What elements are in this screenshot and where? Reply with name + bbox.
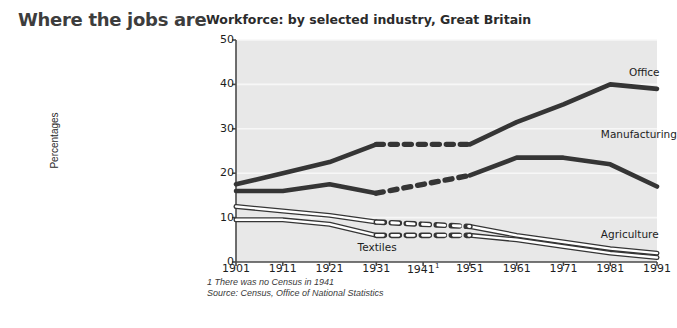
x-tick-text: 1971 (549, 262, 577, 275)
x-tick-text: 1931 (362, 262, 390, 275)
y-tick-label: 40 (200, 77, 234, 90)
x-tick-label: 1981 (596, 262, 624, 275)
x-tick-text: 1941 (407, 263, 435, 276)
x-tick-text: 1991 (643, 262, 671, 275)
y-tick-label: 30 (200, 122, 234, 135)
y-tick-label: 10 (200, 211, 234, 224)
x-tick-text: 1981 (596, 262, 624, 275)
x-tick-text: 1921 (316, 262, 344, 275)
y-axis-label: Percentages (49, 81, 60, 201)
x-tick-label: 1921 (316, 262, 344, 275)
x-tick-text: 1901 (222, 262, 250, 275)
x-tick-label: 1911 (269, 262, 297, 275)
x-tick-label: 1991 (643, 262, 671, 275)
x-tick-label: 1951 (456, 262, 484, 275)
series-label-agriculture: Agriculture (601, 228, 659, 240)
x-tick-label: 1901 (222, 262, 250, 275)
x-tick-text: 1911 (269, 262, 297, 275)
x-tick-label: 1961 (503, 262, 531, 275)
footnote: 1 There was no Census in 1941 (207, 277, 334, 287)
series-label-textiles: Textiles (358, 241, 397, 253)
x-tick-text: 1951 (456, 262, 484, 275)
footnote-marker: 1 (435, 262, 439, 270)
y-tick-label: 50 (200, 33, 234, 46)
source-note: Source: Census, Office of National Stati… (207, 288, 384, 298)
x-tick-label: 1971 (549, 262, 577, 275)
x-tick-label: 1931 (362, 262, 390, 275)
x-tick-label: 19411 (407, 262, 439, 276)
y-tick-label: 20 (200, 166, 234, 179)
x-tick-text: 1961 (503, 262, 531, 275)
series-label-manufacturing: Manufacturing (601, 128, 677, 140)
series-label-office: Office (629, 66, 660, 78)
